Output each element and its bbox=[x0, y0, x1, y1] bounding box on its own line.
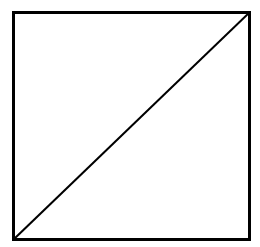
figure-canvas bbox=[0, 0, 260, 247]
square-with-diagonal-figure bbox=[0, 0, 260, 247]
